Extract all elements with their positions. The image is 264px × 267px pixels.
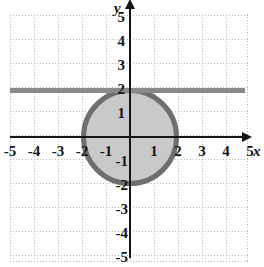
y-tick-label: -5 [116, 250, 129, 265]
x-tick-label: -3 [52, 144, 65, 159]
x-tick-label: -2 [76, 144, 89, 159]
x-tick-label: -1 [100, 144, 113, 159]
y-tick-label: -1 [116, 154, 129, 169]
x-tick-label: 3 [198, 144, 206, 159]
y-tick-label: 2 [118, 82, 126, 97]
graph-figure: ) y x -5 -4 [0, 0, 264, 267]
y-tick-label: 4 [118, 34, 126, 49]
y-axis [129, 8, 131, 258]
y-tick-label: -4 [116, 226, 129, 241]
x-tick-label: 4 [222, 144, 230, 159]
x-axis-label: x [253, 144, 261, 159]
y-tick-label: -3 [116, 202, 129, 217]
y-tick-label: -2 [116, 178, 129, 193]
y-tick-label: 3 [118, 58, 126, 73]
y-axis-arrow-icon [125, 0, 135, 9]
plot-area: y x -5 -4 -3 -2 -1 1 2 3 4 5 5 4 3 2 1 -… [10, 14, 248, 262]
horizontal-line-y1 [10, 88, 245, 93]
x-axis-arrow-icon [242, 132, 252, 142]
x-tick-label: 1 [150, 144, 158, 159]
x-tick-label: 2 [174, 144, 182, 159]
y-tick-label: 1 [118, 106, 126, 121]
x-tick-label: -5 [4, 144, 17, 159]
y-tick-label: 5 [118, 10, 126, 25]
x-axis [10, 136, 243, 138]
x-tick-label: -4 [28, 144, 41, 159]
x-tick-label: 5 [246, 144, 254, 159]
